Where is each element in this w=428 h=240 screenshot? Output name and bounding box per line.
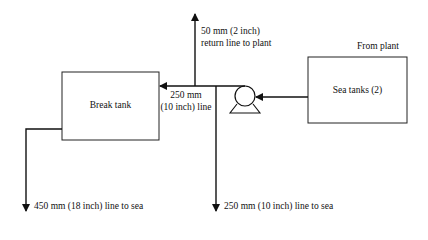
return-line-label-2: return line to plant [201,37,271,49]
return-line-label-1: 50 mm (2 inch) [201,25,260,37]
main-outlet-label: 250 mm (10 inch) line to sea [224,200,333,212]
from-plant-label: From plant [357,40,399,52]
break-tank-label: Break tank [62,99,159,111]
main-line-label-2: (10 inch) line [160,101,212,113]
pump-icon [235,86,255,106]
main-line-label-1: 250 mm [160,89,212,101]
break-tank-outlet-line [26,129,62,211]
sea-tanks-label: Sea tanks (2) [308,84,407,96]
break-tank-outlet-label: 450 mm (18 inch) line to sea [34,200,143,212]
